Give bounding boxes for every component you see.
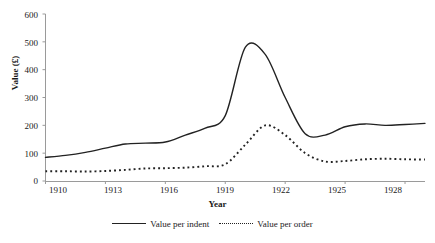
legend-label-value-per-order: Value per order	[257, 219, 312, 229]
line-value-per-indent	[46, 43, 426, 157]
chart-legend: Value per indent Value per order	[0, 219, 435, 229]
legend-dotted-line-icon	[219, 223, 253, 225]
chart-container: Value (£) 600 500 400 300 200 100 0 1910…	[0, 0, 435, 243]
x-axis-title: Year	[0, 199, 435, 209]
legend-label-value-per-indent: Value per indent	[150, 219, 209, 229]
legend-solid-line-icon	[112, 223, 146, 225]
legend-item-value-per-indent: Value per indent	[112, 219, 209, 229]
legend-item-value-per-order: Value per order	[219, 219, 312, 229]
